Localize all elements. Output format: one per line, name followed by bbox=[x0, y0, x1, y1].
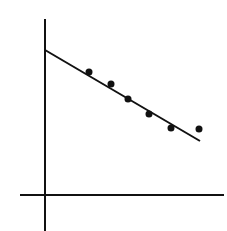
data-points bbox=[86, 69, 203, 133]
data-point bbox=[168, 125, 175, 132]
scatter-chart bbox=[0, 0, 227, 231]
trend-line bbox=[45, 50, 200, 141]
data-point bbox=[146, 111, 153, 118]
data-point bbox=[86, 69, 93, 76]
data-point bbox=[196, 126, 203, 133]
data-point bbox=[108, 81, 115, 88]
data-point bbox=[125, 96, 132, 103]
